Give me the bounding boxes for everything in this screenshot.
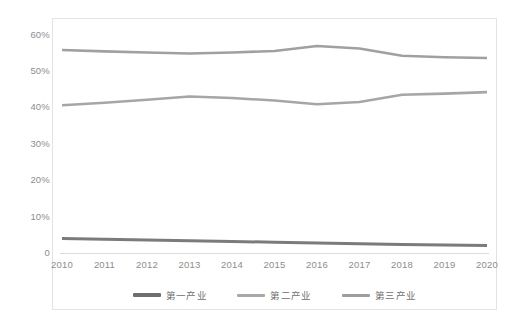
x-axis-tick-label: 2012 — [127, 259, 167, 270]
y-axis-tick-label: 40% — [14, 101, 50, 112]
legend-label-tertiary-industry: 第三产业 — [375, 288, 417, 302]
y-axis-tick-label: 10% — [14, 211, 50, 222]
legend-label-secondary-industry: 第二产业 — [270, 288, 312, 302]
x-axis-tick-label: 2010 — [42, 259, 82, 270]
chart-legend: 第一产业 第二产业 第三产业 — [52, 288, 497, 302]
x-axis-tick-label: 2015 — [255, 259, 295, 270]
legend-swatch-tertiary-industry — [342, 294, 370, 297]
series-line-1 — [62, 239, 487, 246]
series-line-3 — [62, 46, 487, 58]
y-axis-tick-label: 20% — [14, 174, 50, 185]
series-lines — [62, 46, 487, 246]
x-axis-tick-label: 2018 — [382, 259, 422, 270]
chart-plot-area — [0, 0, 520, 335]
legend-label-primary-industry: 第一产业 — [166, 288, 208, 302]
series-line-2 — [62, 92, 487, 105]
y-axis-tick-label: 0 — [14, 247, 50, 258]
x-axis-tick-label: 2020 — [467, 259, 507, 270]
legend-swatch-secondary-industry — [237, 294, 265, 297]
x-axis-tick-label: 2013 — [170, 259, 210, 270]
y-axis-tick-label: 50% — [14, 65, 50, 76]
x-axis-tick-label: 2014 — [212, 259, 252, 270]
legend-item-tertiary-industry[interactable]: 第三产业 — [342, 288, 417, 302]
legend-swatch-primary-industry — [133, 293, 161, 297]
x-axis-tick-label: 2017 — [340, 259, 380, 270]
legend-item-primary-industry[interactable]: 第一产业 — [133, 288, 208, 302]
x-axis-tick-label: 2011 — [85, 259, 125, 270]
y-axis-tick-label: 60% — [14, 29, 50, 40]
legend-item-secondary-industry[interactable]: 第二产业 — [237, 288, 312, 302]
x-axis-tick-label: 2016 — [297, 259, 337, 270]
y-axis-tick-label: 30% — [14, 138, 50, 149]
x-axis-tick-label: 2019 — [425, 259, 465, 270]
figure-caption — [0, 322, 520, 335]
